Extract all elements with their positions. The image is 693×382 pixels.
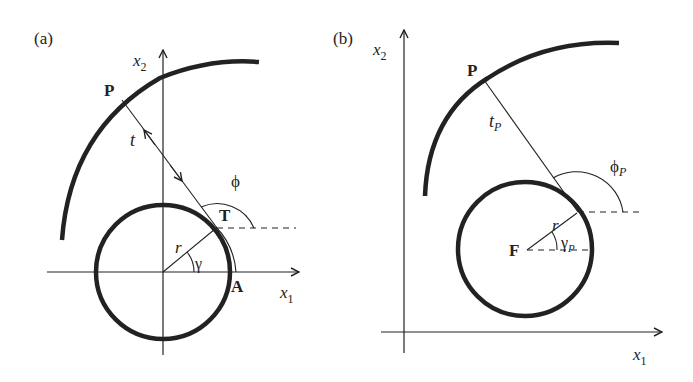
t-arrow-up [144, 130, 155, 145]
label-r-b: r [552, 216, 559, 235]
x2-axis-label-a: x2 [132, 51, 147, 74]
point-P-b: P [467, 61, 477, 80]
point-P-a: P [104, 81, 114, 100]
label-gammaP-b: γP [560, 234, 575, 254]
panel-b: (b) x2 x1 P F tP r γP ϕP [333, 29, 662, 368]
x1-axis-label-a: x1 [279, 283, 294, 306]
label-t-a: t [130, 130, 136, 150]
tangent-line-b [484, 80, 578, 212]
panel-a: (a) x2 x1 P T A t r γ ϕ [34, 29, 299, 355]
involute-curve-b [425, 43, 619, 196]
x2-axis-label-b: x2 [372, 40, 387, 63]
panel-a-label: (a) [34, 29, 53, 48]
label-phiP-b: ϕP [610, 157, 627, 179]
panel-b-label: (b) [333, 29, 353, 48]
label-tP-b: tP [489, 111, 502, 134]
point-F-b: F [509, 241, 519, 260]
gamma-angle-arc-a [187, 252, 194, 272]
label-phi-a: ϕ [231, 172, 240, 191]
label-gamma-a: γ [194, 255, 202, 273]
point-A-a: A [231, 277, 244, 296]
label-r-a: r [175, 238, 182, 257]
involute-geometry-figure: (a) x2 x1 P T A t r γ ϕ [0, 0, 693, 382]
x1-axis-label-b: x1 [632, 345, 647, 368]
point-T-a: T [219, 206, 231, 225]
t-arrow-down [170, 165, 182, 181]
radius-line-a [163, 229, 215, 272]
